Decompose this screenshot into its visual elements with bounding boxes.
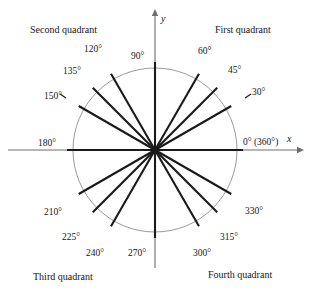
angle-label-300: 300°: [193, 249, 211, 259]
angle-label-270: 270°: [128, 249, 146, 259]
angle-label-45: 45°: [228, 66, 241, 76]
angle-label-225: 225°: [62, 233, 80, 243]
angle-label-240: 240°: [86, 249, 104, 259]
quadrant-4-label: Fourth quadrant: [208, 270, 272, 280]
angle-label-60: 60°: [198, 47, 211, 57]
quadrant-2-label: Second quadrant: [30, 25, 97, 35]
angle-label-30: 30°: [252, 88, 265, 98]
angle-label-315: 315°: [220, 233, 238, 243]
y-axis-arrowhead: [152, 9, 158, 16]
angle-label-90: 90°: [131, 52, 144, 62]
angle-label-210: 210°: [44, 208, 62, 218]
angle-label-330: 330°: [245, 207, 263, 217]
x-axis-label: x: [287, 134, 291, 144]
unit-circle-figure: 0° (360°)30°45°60°90°120°135°150°180°210…: [0, 0, 312, 304]
angle-label-180: 180°: [38, 139, 56, 149]
angle-label-150: 150°: [44, 92, 62, 102]
angle-label-120: 120°: [84, 45, 102, 55]
leader-line-30: [245, 94, 251, 98]
x-axis-arrowhead: [297, 147, 304, 153]
angle-diagram-svg: [0, 0, 312, 304]
quadrant-1-label: First quadrant: [215, 25, 271, 35]
quadrant-3-label: Third quadrant: [33, 272, 93, 282]
y-axis-label: y: [161, 14, 165, 24]
angle-label-135: 135°: [63, 67, 81, 77]
angle-label-0: 0° (360°): [243, 138, 278, 148]
